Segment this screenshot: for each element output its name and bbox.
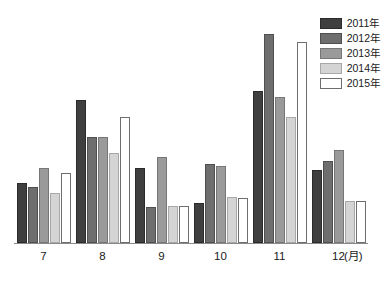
legend-item-2013[interactable]: 2013年 [320, 46, 380, 60]
bar-2015-month-8 [120, 117, 130, 243]
x-tick-label-9: 9 [132, 248, 191, 268]
bar-2015-month-10 [238, 198, 248, 243]
legend-label-2013: 2013年 [347, 48, 380, 59]
bar-group-month-8 [73, 18, 132, 243]
bar-2014-month-8 [109, 153, 119, 243]
bar-2013-month-9 [157, 157, 167, 243]
x-tick-label-7: 7 [14, 248, 73, 268]
bar-2011-month-9 [135, 168, 145, 243]
x-axis-line [14, 243, 368, 244]
bar-2012-month-9 [146, 207, 156, 243]
x-axis-tick-labels: 789101112 [14, 248, 368, 268]
bar-group-month-9 [132, 18, 191, 243]
legend-swatch-icon-2011 [320, 18, 342, 29]
bar-chart: 789101112 (月) 2011年2012年2013年2014年2015年 [0, 0, 390, 287]
bar-2013-month-8 [98, 137, 108, 243]
bar-2011-month-7 [17, 183, 27, 243]
bar-group-month-7 [14, 18, 73, 243]
legend-item-2014[interactable]: 2014年 [320, 61, 380, 75]
bar-2014-month-11 [286, 117, 296, 243]
x-tick-label-11: 11 [250, 248, 309, 268]
bar-2012-month-11 [264, 34, 274, 243]
bar-2011-month-10 [194, 203, 204, 243]
bar-2015-month-12 [356, 201, 366, 243]
legend-label-2015: 2015年 [347, 78, 380, 89]
bar-2013-month-12 [334, 150, 344, 243]
legend-label-2011: 2011年 [347, 18, 380, 29]
bar-2015-month-9 [179, 206, 189, 243]
bar-2011-month-11 [253, 91, 263, 243]
bar-2015-month-7 [61, 173, 71, 243]
legend-swatch-icon-2015 [320, 78, 342, 89]
bar-2012-month-7 [28, 187, 38, 243]
bar-2014-month-9 [168, 206, 178, 243]
bar-2015-month-11 [297, 42, 307, 243]
bar-2014-month-12 [345, 201, 355, 243]
chart-legend: 2011年2012年2013年2014年2015年 [320, 16, 380, 90]
bar-group-month-10 [191, 18, 250, 243]
legend-swatch-icon-2013 [320, 48, 342, 59]
legend-label-2014: 2014年 [347, 63, 380, 74]
legend-item-2015[interactable]: 2015年 [320, 76, 380, 90]
bar-2012-month-8 [87, 137, 97, 243]
bar-2013-month-11 [275, 97, 285, 243]
legend-label-2012: 2012年 [347, 33, 380, 44]
bar-2011-month-12 [312, 170, 322, 243]
x-tick-label-10: 10 [191, 248, 250, 268]
bar-2013-month-10 [216, 166, 226, 243]
x-axis-unit-label: (月) [344, 248, 363, 264]
bar-group-month-11 [250, 18, 309, 243]
bar-2012-month-10 [205, 164, 215, 243]
legend-swatch-icon-2012 [320, 33, 342, 44]
bar-2013-month-7 [39, 168, 49, 243]
legend-swatch-icon-2014 [320, 63, 342, 74]
bar-2014-month-10 [227, 197, 237, 243]
bar-2014-month-7 [50, 193, 60, 243]
legend-item-2012[interactable]: 2012年 [320, 31, 380, 45]
x-tick-label-8: 8 [73, 248, 132, 268]
legend-item-2011[interactable]: 2011年 [320, 16, 380, 30]
bar-2012-month-12 [323, 161, 333, 243]
bar-2011-month-8 [76, 100, 86, 243]
bar-groups-container [14, 18, 368, 243]
